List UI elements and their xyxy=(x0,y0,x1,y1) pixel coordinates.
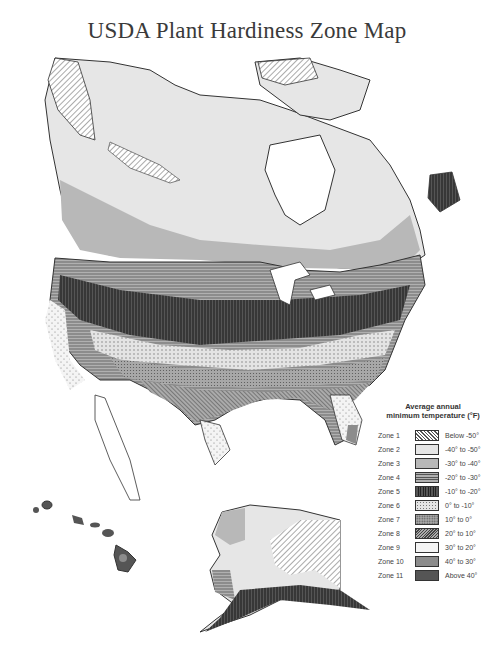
zone-label: Zone 4 xyxy=(372,474,415,481)
zone-range: -20° to -30° xyxy=(445,474,481,481)
legend-row-zone-11: Zone 11Above 40° xyxy=(372,568,494,582)
legend-row-zone-3: Zone 3-30° to -40° xyxy=(372,456,494,470)
zone-swatch xyxy=(415,542,439,553)
legend-row-zone-10: Zone 1040° to 30° xyxy=(372,554,494,568)
zone-range: -30° to -40° xyxy=(445,460,481,467)
zone-swatch xyxy=(415,570,439,581)
zone-range: Below -50° xyxy=(445,432,479,439)
zone-label: Zone 6 xyxy=(372,502,415,509)
zone-range: Above 40° xyxy=(445,572,477,579)
zone-range: 20° to 10° xyxy=(445,530,476,537)
legend-row-zone-4: Zone 4-20° to -30° xyxy=(372,470,494,484)
legend-row-zone-2: Zone 2-40° to -50° xyxy=(372,442,494,456)
zone-range: 30° to 20° xyxy=(445,544,476,551)
legend: Average annual minimum temperature (°F) … xyxy=(372,402,494,582)
zone-range: -10° to -20° xyxy=(445,488,481,495)
zone-label: Zone 8 xyxy=(372,530,415,537)
zone-label: Zone 5 xyxy=(372,488,415,495)
zone-swatch xyxy=(415,444,439,455)
legend-title: Average annual minimum temperature (°F) xyxy=(372,402,494,420)
legend-row-zone-5: Zone 5-10° to -20° xyxy=(372,484,494,498)
zone-range: -40° to -50° xyxy=(445,446,481,453)
zone-label: Zone 2 xyxy=(372,446,415,453)
zone-range: 10° to 0° xyxy=(445,516,472,523)
legend-row-zone-9: Zone 930° to 20° xyxy=(372,540,494,554)
alaska-region xyxy=(200,505,370,632)
zone-label: Zone 11 xyxy=(372,572,415,579)
hawaii-region xyxy=(33,501,136,572)
legend-row-zone-6: Zone 60° to -10° xyxy=(372,498,494,512)
legend-row-zone-1: Zone 1Below -50° xyxy=(372,428,494,442)
zone-swatch xyxy=(415,430,439,441)
zone-label: Zone 10 xyxy=(372,558,415,565)
zone-swatch xyxy=(415,486,439,497)
zone-swatch xyxy=(415,500,439,511)
legend-row-zone-7: Zone 710° to 0° xyxy=(372,512,494,526)
zone-range: 40° to 30° xyxy=(445,558,476,565)
zone-label: Zone 1 xyxy=(372,432,415,439)
zone-swatch xyxy=(415,472,439,483)
legend-row-zone-8: Zone 820° to 10° xyxy=(372,526,494,540)
baja-california xyxy=(95,395,140,500)
zone-range: 0° to -10° xyxy=(445,502,474,509)
zone-swatch xyxy=(415,556,439,567)
zone-swatch xyxy=(415,458,439,469)
zone-label: Zone 9 xyxy=(372,544,415,551)
zone-swatch xyxy=(415,528,439,539)
zone-label: Zone 3 xyxy=(372,460,415,467)
zone-swatch xyxy=(415,514,439,525)
zone-label: Zone 7 xyxy=(372,516,415,523)
